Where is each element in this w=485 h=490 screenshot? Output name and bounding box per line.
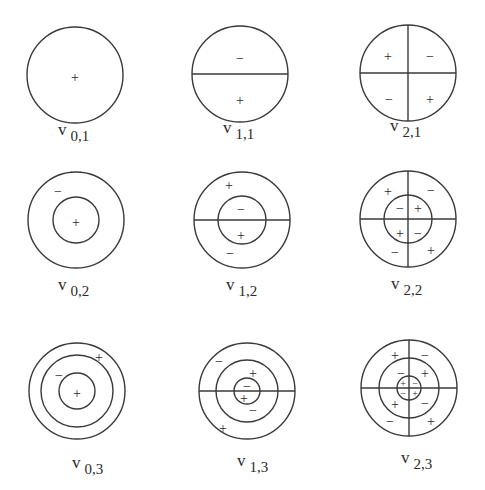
mode-2-2: +−−++−−+ <box>360 171 456 267</box>
plus-sign: + <box>219 421 227 436</box>
mode-label: v1,3 <box>237 451 268 475</box>
mode-0-2: −+ <box>28 172 124 268</box>
plus-sign: + <box>391 397 399 412</box>
plus-sign: + <box>384 49 392 64</box>
mode-label: v2,3 <box>401 448 432 472</box>
minus-sign: − <box>414 226 422 241</box>
mode-0-1: + <box>27 27 123 123</box>
plus-sign: + <box>384 184 392 199</box>
plus-sign: + <box>72 215 80 230</box>
minus-sign: − <box>421 348 429 363</box>
minus-sign: − <box>400 388 406 399</box>
plus-sign: + <box>391 348 399 363</box>
minus-sign: − <box>226 246 234 261</box>
minus-sign: − <box>55 368 63 383</box>
plus-sign: + <box>427 243 435 258</box>
plus-sign: + <box>412 388 418 399</box>
plus-sign: + <box>421 366 429 381</box>
mode-1-1: −+ <box>192 26 288 122</box>
mode-label: v0,2 <box>58 275 89 299</box>
mode-label: v2,2 <box>391 274 422 298</box>
plus-sign: + <box>414 201 422 216</box>
minus-sign: − <box>426 49 434 64</box>
plus-sign: + <box>73 386 81 401</box>
minus-sign: − <box>391 245 399 260</box>
minus-sign: − <box>54 184 62 199</box>
mode-2-1: +−−+ <box>360 25 456 121</box>
mode-0-3: +−+ <box>29 343 125 439</box>
plus-sign: + <box>427 414 435 429</box>
minus-sign: − <box>249 403 257 418</box>
minus-sign: − <box>396 201 404 216</box>
mode-label: v0,3 <box>72 453 103 477</box>
minus-sign: − <box>386 414 394 429</box>
minus-sign: − <box>237 202 245 217</box>
minus-sign: − <box>427 183 435 198</box>
plus-sign: + <box>71 70 79 85</box>
minus-sign: − <box>215 354 223 369</box>
mode-label: v1,2 <box>226 275 257 299</box>
plus-sign: + <box>236 93 244 108</box>
mode-1-3: −+−+−+ <box>199 343 295 439</box>
minus-sign: − <box>421 396 429 411</box>
plus-sign: + <box>237 228 245 243</box>
plus-sign: + <box>95 350 103 365</box>
membrane-modes-diagram: +−++−−+−++−+−+−−++−−++−+−+−+−++−−++−−++−… <box>0 0 485 490</box>
minus-sign: − <box>385 92 393 107</box>
plus-sign: + <box>426 92 434 107</box>
plus-sign: + <box>396 226 404 241</box>
plus-sign: + <box>240 391 248 406</box>
minus-sign: − <box>236 51 244 66</box>
mode-1-2: +−+− <box>194 172 290 268</box>
plus-sign: + <box>225 178 233 193</box>
mode-2-3: +−−++−−++−−+ <box>361 340 457 436</box>
